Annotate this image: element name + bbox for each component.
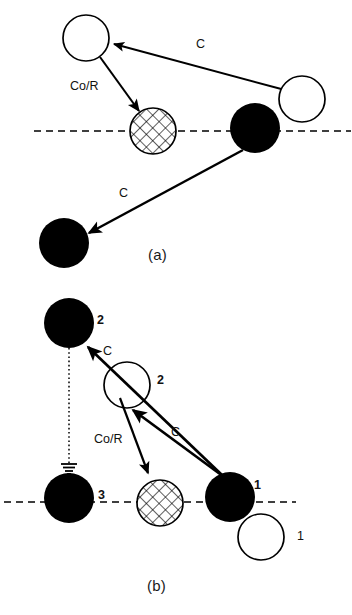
open-circle-top-left-a — [63, 15, 109, 61]
label-c-upper-b: C — [103, 344, 112, 358]
filled-circle-1-surface-b — [205, 472, 255, 522]
arrow-c-lower-a — [89, 150, 243, 233]
caption-panel-a: (a) — [148, 246, 167, 263]
label-2-open-b: 2 — [157, 373, 164, 387]
ground-arrow-symbol-b — [61, 464, 77, 474]
label-1-lower-b: 1 — [297, 529, 304, 543]
label-1-surface-b: 1 — [254, 478, 261, 492]
arrow-c-upper-b — [88, 347, 222, 475]
arrow-co-r-a — [100, 57, 139, 111]
panel-b — [4, 298, 296, 560]
label-co-r-a: Co/R — [70, 79, 98, 93]
schematic-figure — [0, 0, 352, 615]
open-circle-1-lower-b — [238, 514, 284, 560]
label-c-lower-a: C — [119, 186, 128, 200]
label-3-b: 3 — [98, 488, 105, 502]
panel-a — [34, 15, 351, 268]
label-co-r-b: Co/R — [94, 432, 122, 446]
hatched-circle-b — [137, 480, 183, 526]
open-circle-right-a — [279, 76, 325, 122]
label-2-top-b: 2 — [97, 313, 104, 327]
filled-circle-3-b — [44, 473, 94, 523]
label-c-mid-b: C — [171, 425, 180, 439]
filled-circle-2-top-b — [44, 298, 94, 348]
caption-panel-b: (b) — [147, 577, 166, 594]
filled-circle-bottom-a — [39, 218, 89, 268]
label-c-upper-a: C — [196, 37, 205, 51]
hatched-circle-a — [130, 108, 176, 154]
filled-circle-surface-a — [230, 103, 280, 153]
